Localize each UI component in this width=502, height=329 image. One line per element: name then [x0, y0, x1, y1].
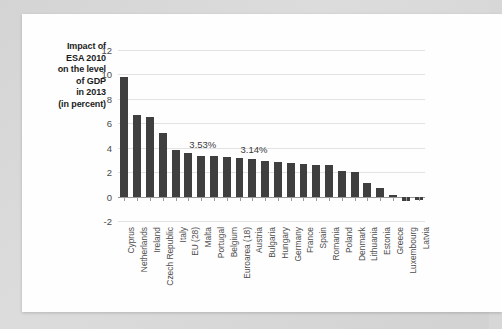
x-axis-category-label: Malta [204, 227, 213, 247]
bar-series [118, 50, 425, 221]
x-axis-tick [201, 197, 202, 201]
x-axis-tick [367, 197, 368, 201]
x-axis-category-label: Euroarea (18) [243, 227, 252, 279]
chart-title-line-5: in 2013 [26, 87, 106, 99]
bar [146, 117, 154, 197]
bar [120, 77, 128, 197]
chart-title-line-4: of GDP [26, 76, 106, 88]
bar [172, 150, 180, 196]
x-axis-tick [278, 197, 279, 201]
x-axis-category-label: France [306, 227, 315, 253]
bar [159, 133, 167, 197]
x-axis-tick [303, 197, 304, 201]
x-axis-tick [355, 197, 356, 201]
x-axis-category-labels: CyprusNetherlandsIrelandCzech RepublicIt… [118, 227, 425, 309]
x-axis-category-label: Bulgaria [268, 227, 277, 258]
bar [325, 165, 333, 196]
x-axis-category-label: Estonia [383, 227, 392, 255]
x-axis-tick [419, 197, 420, 201]
x-axis-tick [188, 197, 189, 201]
x-axis-tick [227, 197, 228, 201]
bar [236, 158, 244, 196]
y-axis-tick-label: 10 [101, 69, 112, 80]
x-axis-category-label: Czech Republic [166, 227, 175, 286]
x-axis-tick [291, 197, 292, 201]
bar [223, 157, 231, 197]
bar [274, 162, 282, 196]
data-label: 3.53% [189, 139, 216, 150]
bar [197, 156, 205, 196]
bar [133, 115, 141, 196]
chart-title-line-1: Impact of [26, 41, 106, 53]
x-axis-tick [124, 197, 125, 201]
x-axis-tick [163, 197, 164, 201]
x-axis-tick [265, 197, 266, 201]
x-axis-tick [406, 197, 407, 201]
y-axis-tick-label: 12 [101, 45, 112, 56]
x-axis-tick [176, 197, 177, 201]
bar [210, 156, 218, 196]
chart-page-card: Impact of ESA 2010 on the level of GDP i… [22, 14, 502, 312]
plot-area: -2024681012 3.53%3.14% [118, 50, 425, 221]
y-axis-tick-label: 4 [107, 142, 112, 153]
x-axis-category-label: Latvia [422, 227, 431, 249]
x-axis-tick [214, 197, 215, 201]
y-axis-tick-label: 6 [107, 118, 112, 129]
x-axis-tick [150, 197, 151, 201]
x-axis-category-label: Spain [319, 227, 328, 248]
bar [351, 172, 359, 197]
bar [287, 163, 295, 197]
x-axis-category-label: Luxembourg [409, 227, 418, 274]
x-axis-category-label: EU (28) [191, 227, 200, 256]
y-axis-tick-label: 8 [107, 93, 112, 104]
data-label: 3.14% [241, 144, 268, 155]
x-axis-category-label: Romania [332, 227, 341, 261]
bar [312, 165, 320, 197]
x-axis-tick [316, 197, 317, 201]
y-axis-tick-label: -2 [104, 216, 112, 227]
bar [184, 153, 192, 196]
bar [261, 161, 269, 197]
bar [363, 183, 371, 196]
x-axis-tick [137, 197, 138, 201]
bar [248, 159, 256, 197]
y-axis-tick-label: 0 [107, 191, 112, 202]
x-axis-category-label: Austria [255, 227, 264, 253]
chart-title-line-6: (in percent) [26, 99, 106, 111]
x-axis-category-label: Belgium [230, 227, 239, 257]
x-axis-category-label: Denmark [358, 227, 367, 261]
x-axis-category-label: Lithuania [370, 227, 379, 261]
x-axis-category-label: Ireland [153, 227, 162, 253]
x-axis-tick [380, 197, 381, 201]
x-axis-category-label: Germany [294, 227, 303, 261]
x-axis-category-label: Poland [345, 227, 354, 253]
x-axis-category-label: Portugal [217, 227, 226, 258]
chart-title-line-2: ESA 2010 [26, 53, 106, 65]
x-axis-tick [393, 197, 394, 201]
gridline [118, 221, 425, 222]
x-axis-category-label: Hungary [281, 227, 290, 259]
x-axis-tick [252, 197, 253, 201]
chart-title-line-3: on the level [26, 64, 106, 76]
x-axis-category-label: Cyprus [127, 227, 136, 254]
bar [338, 171, 346, 197]
x-axis-category-label: Italy [179, 227, 188, 242]
x-axis-tick [240, 197, 241, 201]
y-axis-tick-label: 2 [107, 167, 112, 178]
x-axis-tick [329, 197, 330, 201]
gdp-impact-bar-chart: Impact of ESA 2010 on the level of GDP i… [22, 14, 502, 312]
bar [376, 188, 384, 197]
bar [300, 164, 308, 197]
x-axis-category-label: Netherlands [140, 227, 149, 272]
x-axis-category-label: Greece [396, 227, 405, 254]
chart-title: Impact of ESA 2010 on the level of GDP i… [26, 41, 106, 111]
x-axis-tick [342, 197, 343, 201]
